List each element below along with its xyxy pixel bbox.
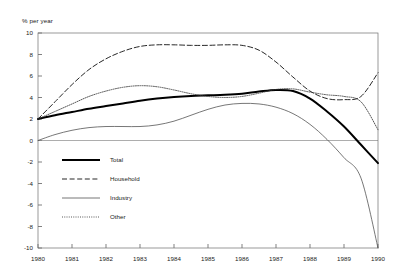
line-chart: 1086420-2-4-6-8-10 198019811982198319841… — [0, 0, 401, 274]
chart-legend: TotalHouseholdIndustryOther — [62, 156, 140, 220]
y-tick-label: -2 — [27, 158, 33, 165]
y-tick-label: 2 — [30, 115, 34, 122]
series-line-other — [38, 86, 378, 130]
series-line-total — [38, 90, 378, 163]
x-tick-label: 1986 — [235, 255, 249, 262]
y-tick-label: -6 — [27, 201, 33, 208]
x-tick-label: 1989 — [337, 255, 351, 262]
x-tick-label: 1985 — [201, 255, 215, 262]
legend-label-industry: Industry — [110, 194, 133, 201]
x-tick-label: 1982 — [99, 255, 113, 262]
series-lines — [38, 45, 378, 248]
y-tick-label: -10 — [24, 244, 34, 251]
y-tick-label: 6 — [30, 72, 34, 79]
series-line-industry — [38, 103, 378, 248]
x-tick-label: 1980 — [31, 255, 45, 262]
x-tick-label: 1990 — [371, 255, 385, 262]
legend-label-household: Household — [110, 175, 140, 182]
y-tick-label: -8 — [27, 223, 33, 230]
y-tick-label: 0 — [30, 137, 34, 144]
legend-label-other: Other — [110, 213, 125, 220]
legend-label-total: Total — [110, 156, 123, 163]
x-tick-label: 1981 — [65, 255, 79, 262]
x-tick-label: 1987 — [269, 255, 283, 262]
y-tick-label: -4 — [27, 180, 33, 187]
y-tick-label: 8 — [30, 51, 34, 58]
y-tick-label: 4 — [30, 94, 34, 101]
x-tick-label: 1984 — [167, 255, 181, 262]
x-tick-label: 1988 — [303, 255, 317, 262]
x-axis-ticks: 1980198119821983198419851986198719881989… — [31, 244, 385, 262]
y-tick-label: 10 — [26, 29, 33, 36]
x-tick-label: 1983 — [133, 255, 147, 262]
chart-container: % per year 1086420-2-4-6-8-10 1980198119… — [0, 0, 401, 274]
